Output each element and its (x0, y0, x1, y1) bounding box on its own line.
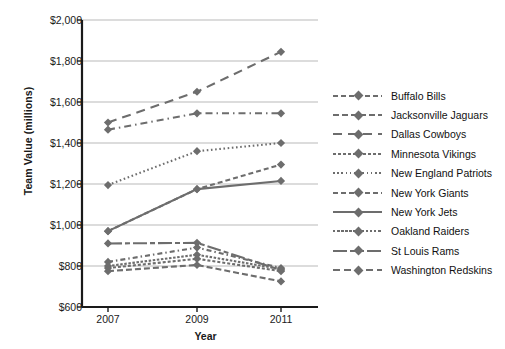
legend-line-swatch-icon (333, 108, 382, 122)
line-chart: Team Value (millions) $2,000$1,800$1,600… (0, 0, 505, 349)
legend-line-swatch-icon (333, 224, 382, 238)
legend-item-label: New York Giants (391, 187, 469, 199)
data-point-marker (193, 147, 201, 155)
legend-item[interactable]: Buffalo Bills (333, 86, 505, 105)
series-line (108, 165, 281, 232)
data-point-marker (193, 109, 201, 117)
data-point-marker (193, 88, 201, 96)
series-washington-redskins (104, 109, 285, 134)
legend-item[interactable]: New York Jets (333, 202, 505, 221)
legend-marker-icon (353, 91, 363, 101)
data-point-marker (277, 48, 285, 56)
series-new-york-giants (104, 160, 285, 235)
legend-marker-icon (353, 168, 363, 178)
data-point-marker (277, 109, 285, 117)
legend-item[interactable]: Oakland Raiders (333, 222, 505, 241)
legend-line-swatch-icon (333, 244, 382, 258)
data-point-marker (104, 118, 112, 126)
series-jacksonville-jaguars (104, 261, 285, 286)
legend-item-label: Oakland Raiders (391, 225, 469, 237)
data-point-marker (277, 277, 285, 285)
legend-item[interactable]: New England Patriots (333, 164, 505, 183)
legend-marker-icon (353, 246, 363, 256)
data-point-marker (104, 239, 112, 247)
x-tick-label: 2007 (78, 313, 138, 325)
legend-item-label: Buffalo Bills (391, 90, 446, 102)
legend-item[interactable]: Washington Redskins (333, 261, 505, 280)
legend-line-swatch-icon (333, 186, 382, 200)
legend-item[interactable]: Jacksonville Jaguars (333, 105, 505, 124)
data-point-marker (277, 139, 285, 147)
legend-item[interactable]: Dallas Cowboys (333, 125, 505, 144)
series-line (108, 265, 281, 281)
legend-line-swatch-icon (333, 147, 382, 161)
legend-line-swatch-icon (333, 263, 382, 277)
legend-line-swatch-icon (333, 127, 382, 141)
legend-marker-icon (353, 207, 363, 217)
legend-line-swatch-icon (333, 205, 382, 219)
legend-marker-icon (353, 110, 363, 120)
legend-marker-icon (353, 130, 363, 140)
series-new-york-jets (104, 177, 285, 235)
data-point-marker (104, 181, 112, 189)
series-new-england-patriots (104, 139, 285, 189)
x-axis-title: Year (88, 330, 323, 342)
legend-item[interactable]: New York Giants (333, 183, 505, 202)
legend-item-label: St Louis Rams (391, 245, 459, 257)
legend-item-label: New York Jets (391, 206, 458, 218)
data-point-marker (277, 160, 285, 168)
legend-item-label: Minnesota Vikings (391, 148, 476, 160)
data-point-marker (193, 185, 201, 193)
series-line (108, 143, 281, 185)
x-tick-label: 2009 (167, 313, 227, 325)
legend-marker-icon (353, 149, 363, 159)
legend-line-swatch-icon (333, 89, 382, 103)
x-tick-label: 2011 (251, 313, 311, 325)
legend-item-label: Jacksonville Jaguars (391, 109, 488, 121)
data-point-marker (104, 227, 112, 235)
legend-marker-icon (353, 226, 363, 236)
legend-marker-icon (353, 265, 363, 275)
series-line (108, 113, 281, 129)
data-point-marker (193, 251, 201, 259)
legend-item[interactable]: Minnesota Vikings (333, 144, 505, 163)
legend-item-label: New England Patriots (391, 167, 492, 179)
data-point-marker (193, 239, 201, 247)
chart-legend: Buffalo BillsJacksonville JaguarsDallas … (333, 86, 505, 280)
legend-item-label: Washington Redskins (391, 264, 492, 276)
legend-item[interactable]: St Louis Rams (333, 241, 505, 260)
legend-item-label: Dallas Cowboys (391, 128, 466, 140)
legend-marker-icon (353, 188, 363, 198)
data-point-marker (104, 126, 112, 134)
legend-line-swatch-icon (333, 166, 382, 180)
